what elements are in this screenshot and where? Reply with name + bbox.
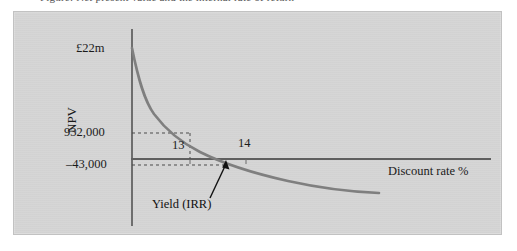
figure-root: Figure: Net present value and the intern… [0,0,517,251]
x-label-14: 14 [238,136,251,151]
y-label-negative: –43,000 [66,157,107,172]
figure-panel: NPV £22m 932,000 –43,000 13 14 Discount … [13,11,502,235]
y-label-positive: 932,000 [64,125,105,140]
figure-caption: Figure: Net present value and the intern… [40,0,320,3]
irr-annotation-label: Yield (IRR) [152,197,211,212]
annotation-arrow-line [210,164,226,198]
y-label-top: £22m [76,41,104,56]
plot-area: NPV £22m 932,000 –43,000 13 14 Discount … [14,12,501,234]
x-label-13: 13 [172,138,185,153]
x-axis-title: Discount rate % [388,164,469,179]
npv-curve [132,48,379,193]
